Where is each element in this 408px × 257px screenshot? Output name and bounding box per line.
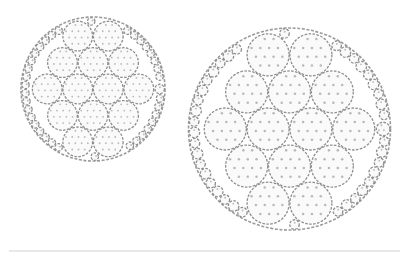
fill-dot xyxy=(272,56,275,59)
packed-circle-large xyxy=(109,101,139,131)
fill-dot xyxy=(108,149,110,151)
fill-dot xyxy=(53,116,55,118)
fill-dot xyxy=(120,103,122,105)
fill-dot xyxy=(306,204,309,207)
fill-dot xyxy=(206,78,208,80)
fill-dot xyxy=(129,89,131,91)
fill-dot xyxy=(306,56,309,59)
fill-dot xyxy=(111,77,113,79)
fill-dot xyxy=(268,213,271,216)
fill-dot xyxy=(353,56,355,58)
fill-dot xyxy=(255,56,258,59)
fill-dot xyxy=(380,101,382,103)
fill-dot xyxy=(332,176,335,179)
fill-dot xyxy=(289,176,292,179)
fill-dot xyxy=(68,142,70,144)
fill-dot xyxy=(50,110,52,112)
fill-dot xyxy=(354,139,357,142)
fill-dot xyxy=(276,167,279,170)
packed-circle-small xyxy=(22,89,29,96)
fill-dot xyxy=(272,38,275,41)
packed-circle-large xyxy=(311,145,353,187)
packed-circle-small xyxy=(23,98,30,105)
fill-dot xyxy=(84,149,86,151)
fill-dot xyxy=(289,84,292,87)
fill-dot xyxy=(96,103,98,105)
fill-dot xyxy=(358,112,361,115)
fill-dot xyxy=(315,186,318,189)
fill-dot xyxy=(311,195,314,198)
packed-circle-large xyxy=(204,108,246,150)
fill-dot xyxy=(281,56,284,59)
packed-circle-small xyxy=(369,167,380,178)
fill-dot xyxy=(297,204,300,207)
fill-dot xyxy=(315,38,318,41)
fill-dot xyxy=(74,142,76,144)
fill-dot xyxy=(133,116,135,118)
fill-dot xyxy=(251,93,254,96)
packed-circle-small xyxy=(28,113,35,120)
fill-dot xyxy=(337,167,340,170)
fill-dot xyxy=(87,69,89,71)
fill-dot xyxy=(277,195,280,198)
fill-dot xyxy=(120,51,122,53)
fill-dot xyxy=(298,158,301,161)
packed-circle-small xyxy=(152,111,159,118)
packed-circle-large xyxy=(247,108,289,150)
fill-dot xyxy=(145,83,147,85)
packed-circle-small xyxy=(376,99,387,110)
fill-dot xyxy=(74,130,76,132)
fill-dot xyxy=(105,37,107,39)
fill-dot xyxy=(90,103,92,105)
fill-dot xyxy=(99,89,101,91)
fill-dot xyxy=(193,119,195,121)
fill-dot xyxy=(130,144,132,146)
packed-circle-small xyxy=(332,41,342,51)
fill-dot xyxy=(277,121,280,124)
fill-dot xyxy=(78,83,80,85)
fill-dot xyxy=(53,96,55,98)
fill-dot xyxy=(36,52,38,54)
fill-dot xyxy=(160,75,162,77)
fill-dot xyxy=(65,103,67,105)
fill-dot xyxy=(56,110,58,112)
fill-dot xyxy=(53,83,55,85)
fill-dot xyxy=(272,130,275,133)
fill-dot xyxy=(155,59,157,61)
fill-dot xyxy=(294,167,297,170)
fill-dot xyxy=(332,84,335,87)
fill-dot xyxy=(383,129,385,131)
packed-circle-large xyxy=(78,48,108,78)
fill-dot xyxy=(84,136,86,138)
fill-dot xyxy=(246,101,249,104)
fill-dot xyxy=(105,24,107,26)
fill-dot xyxy=(255,158,258,161)
fill-dot xyxy=(117,37,119,39)
fill-dot xyxy=(114,149,116,151)
fill-dot xyxy=(293,121,296,124)
fill-dot xyxy=(238,101,241,104)
fill-dot xyxy=(238,130,241,133)
fill-dot xyxy=(146,45,148,47)
fill-dot xyxy=(251,167,254,170)
fill-dot xyxy=(87,89,89,91)
packed-circle-small xyxy=(130,32,137,39)
fill-dot xyxy=(323,158,326,161)
packed-circle-small xyxy=(189,117,199,127)
fill-dot xyxy=(323,176,326,179)
fill-dot xyxy=(32,115,34,117)
fill-dot xyxy=(117,110,119,112)
packed-circle-small xyxy=(341,200,352,211)
fill-dot xyxy=(373,169,375,171)
fill-dot xyxy=(96,63,98,65)
fill-dot xyxy=(217,188,219,190)
packed-circle-large xyxy=(311,71,353,113)
fill-dot xyxy=(259,121,262,124)
fill-dot xyxy=(111,24,113,26)
fill-dot xyxy=(56,69,58,71)
fill-dot xyxy=(263,204,266,207)
fill-dot xyxy=(332,158,335,161)
fill-dot xyxy=(276,93,279,96)
fill-dot xyxy=(62,57,64,59)
fill-dot xyxy=(111,130,113,132)
